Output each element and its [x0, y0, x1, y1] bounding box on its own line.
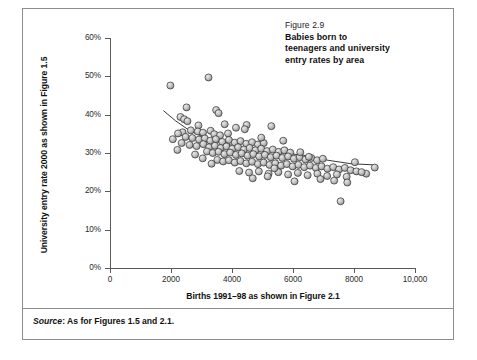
x-axis-title: Births 1991–98 as shown in Figure 2.1 [110, 291, 416, 301]
data-point [221, 121, 228, 128]
data-point [271, 165, 278, 172]
x-axis-tick-label: 0 [80, 275, 140, 284]
data-point [182, 133, 189, 140]
source-note: Source: As for Figures 1.5 and 2.1. [33, 316, 174, 326]
data-point [225, 130, 232, 137]
data-point [183, 104, 190, 111]
data-point [167, 82, 174, 89]
figure-container: Figure 2.9 Babies born to teenagers and … [0, 0, 477, 360]
figure-number: Figure 2.9 [285, 20, 435, 31]
x-axis-tick [354, 268, 355, 273]
source-text: As for Figures 1.5 and 2.1. [67, 316, 174, 326]
data-point [208, 160, 215, 167]
data-point [280, 137, 287, 144]
data-point [215, 110, 222, 117]
data-point [258, 134, 265, 141]
data-point [294, 169, 301, 176]
data-point [187, 127, 194, 134]
data-point [285, 171, 292, 178]
data-point [186, 141, 193, 148]
data-point [236, 168, 243, 175]
data-point [249, 175, 256, 182]
data-point [232, 124, 239, 131]
x-axis-tick [415, 268, 416, 273]
y-axis-tick-label: 10% [57, 225, 101, 234]
data-point [268, 123, 275, 130]
source-label: Source [33, 316, 62, 326]
y-axis-tick-label: 30% [57, 148, 101, 157]
data-point [317, 176, 324, 183]
y-axis-tick-label: 20% [57, 186, 101, 195]
data-point [304, 172, 311, 179]
data-point [319, 155, 326, 162]
data-point [305, 153, 312, 160]
data-point [241, 126, 248, 133]
data-point [212, 136, 219, 143]
x-axis-tick-label: 4000 [202, 275, 262, 284]
data-point [255, 168, 262, 175]
data-point [297, 149, 304, 156]
data-point-group [167, 74, 378, 205]
data-point [184, 118, 191, 125]
data-point [264, 173, 271, 180]
y-axis-tick-label: 40% [57, 110, 101, 119]
plot-area [110, 38, 415, 268]
scatter-plot [110, 38, 415, 268]
data-point [175, 130, 182, 137]
y-axis-tick-label: 0% [57, 263, 101, 272]
data-point [199, 155, 206, 162]
data-point [351, 159, 358, 166]
x-axis-tick-label: 8000 [324, 275, 384, 284]
data-point [344, 179, 351, 186]
data-point [371, 164, 378, 171]
y-axis-tick-label: 50% [57, 71, 101, 80]
y-axis-title: University entry rate 2000 as shown in F… [39, 45, 49, 265]
x-axis-tick [232, 268, 233, 273]
data-point [169, 136, 176, 143]
source-divider [23, 308, 453, 309]
x-axis-tick [171, 268, 172, 273]
x-axis-tick-label: 10,000 [385, 275, 445, 284]
x-axis-tick [293, 268, 294, 273]
x-axis-tick-label: 6000 [263, 275, 323, 284]
data-point [205, 74, 212, 81]
data-point [358, 169, 365, 176]
y-axis-tick-labels: 0%10%20%30%40%50%60% [55, 0, 101, 300]
data-point [193, 143, 200, 150]
y-axis-tick-label: 60% [57, 33, 101, 42]
x-axis-tick [110, 268, 111, 273]
data-point [337, 198, 344, 205]
x-axis-line [110, 268, 416, 269]
x-axis-tick-label: 2000 [141, 275, 201, 284]
data-point [178, 140, 185, 147]
data-point [291, 178, 298, 185]
data-point [189, 135, 196, 142]
data-point [174, 146, 181, 153]
data-point [331, 177, 338, 184]
data-point [324, 173, 331, 180]
data-point [192, 151, 199, 158]
